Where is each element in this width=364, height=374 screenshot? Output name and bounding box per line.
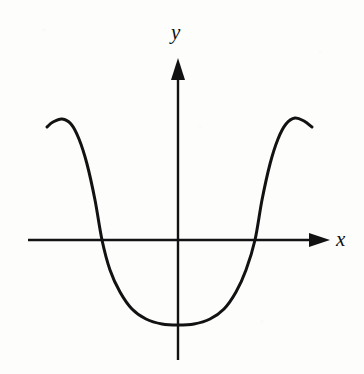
y-axis-label: y — [171, 22, 180, 43]
x-axis-label: x — [336, 229, 345, 250]
function-curve — [47, 118, 312, 325]
y-axis-arrowhead-icon — [171, 58, 185, 80]
graph-canvas — [0, 0, 364, 374]
graph-figure: x y — [0, 0, 364, 374]
x-axis-arrowhead-icon — [309, 233, 330, 247]
